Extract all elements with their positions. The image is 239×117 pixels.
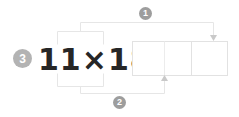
step-1-arrow-stem xyxy=(81,23,214,37)
answer-cell-tens[interactable] xyxy=(165,41,192,76)
answer-cell-ones[interactable] xyxy=(192,41,228,76)
step-1-badge: 1 xyxy=(139,7,152,20)
answer-cell-hundreds[interactable] xyxy=(132,41,165,76)
step-2-arrow-stem xyxy=(81,81,165,94)
problem-number-badge: 3 xyxy=(13,49,32,68)
worksheet-canvas: 3 11×18= 1 2 xyxy=(0,0,239,117)
step-2-badge: 2 xyxy=(113,96,126,109)
answer-box-group xyxy=(132,41,228,76)
